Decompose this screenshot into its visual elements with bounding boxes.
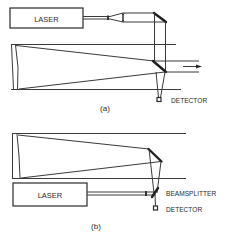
detector-icon-b [154,206,158,210]
fold-mirror-a [154,13,166,22]
panel-a: LASER [10,8,207,113]
laser-a: LASER [10,8,83,28]
return-beam-b-left [149,149,154,193]
light-cone-b-top [18,135,149,149]
detector-label-a: DETECTOR [171,97,207,104]
light-cone-b-bottom [21,162,161,179]
beamsplitter-label: BEAMSPLITTER [166,190,216,197]
primary-mirror-a [12,45,19,91]
beam-expander-a [110,13,124,22]
optical-layout-diagram: LASER [0,0,242,234]
panel-b: LASER BEAMSPLITTER DETECTOR (b) [12,134,216,231]
light-cone-a-bottom [19,72,165,89]
detector-icon-a [157,98,161,102]
laser-label-b: LASER [38,191,63,200]
return-beam-a-left [156,72,159,98]
diagonal-mirror-a [153,61,166,72]
laser-label-a: LASER [34,15,59,24]
light-cone-a-top [16,46,154,62]
beam-stop-element-a [107,16,109,21]
laser-b: LASER [13,183,87,206]
beam-stop-element-b [145,191,147,196]
return-beam-a-right [161,72,166,98]
caption-a: (a) [100,104,110,113]
detector-label-b: DETECTOR [166,206,202,213]
primary-mirror-b [13,134,21,179]
detector-path-b [155,195,156,206]
output-arrow-icon [183,65,202,69]
caption-b: (b) [91,222,101,231]
